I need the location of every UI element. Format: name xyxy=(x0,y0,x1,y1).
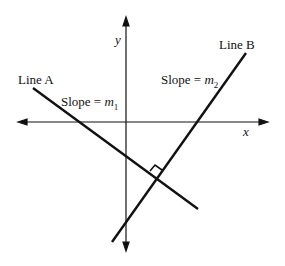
x-axis-right-arrow-icon xyxy=(259,119,268,125)
x-axis-left-arrow-icon xyxy=(18,119,27,125)
x-axis-label: x xyxy=(243,125,249,138)
line-b-label: Line B xyxy=(219,38,255,51)
y-axis-label: y xyxy=(115,33,121,46)
line-a-slope-var: m xyxy=(104,94,113,109)
line-b-slope-text: Slope = xyxy=(161,72,204,87)
line-a-slope-text: Slope = xyxy=(61,94,104,109)
line-b-slope-sub: 2 xyxy=(214,80,219,90)
x-axis xyxy=(18,119,268,125)
line-a-slope-sub: 1 xyxy=(114,102,119,112)
y-axis-bottom-arrow-icon xyxy=(123,242,129,251)
y-axis-top-arrow-icon xyxy=(123,17,129,26)
line-a-slope: Slope = m1 xyxy=(61,95,118,112)
line-b-slope: Slope = m2 xyxy=(161,73,218,90)
y-axis xyxy=(123,17,129,251)
line-b-slope-var: m xyxy=(204,72,213,87)
right-angle-marker xyxy=(150,165,162,171)
line-a-label: Line A xyxy=(18,73,54,86)
